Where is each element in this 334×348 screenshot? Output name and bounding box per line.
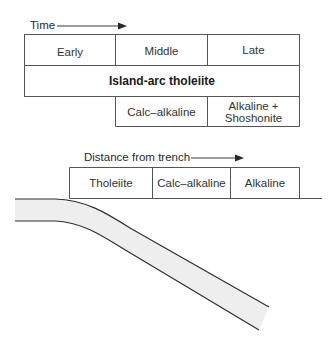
distance-arrow-icon bbox=[191, 155, 244, 162]
zone-calc-alkaline: Calc–alkaline bbox=[153, 168, 230, 198]
time-axis-label: Time bbox=[30, 19, 55, 31]
calc-alkaline-band: Calc–alkaline bbox=[116, 97, 207, 127]
stage-early: Early bbox=[25, 35, 115, 66]
stage-late: Late bbox=[208, 35, 299, 65]
alkaline-shoshonite-band: Alkaline + Shoshonite bbox=[208, 97, 299, 127]
zone-alkaline: Alkaline bbox=[231, 168, 299, 198]
stage-middle: Middle bbox=[116, 35, 207, 66]
time-arrow-icon bbox=[57, 23, 127, 30]
distance-axis-label: Distance from trench bbox=[84, 151, 190, 163]
subducting-slab bbox=[15, 199, 269, 330]
alkaline-label: Alkaline + bbox=[228, 100, 278, 112]
shoshonite-label: Shoshonite bbox=[225, 112, 283, 124]
island-arc-tholeiite-band: Island-arc tholeiite bbox=[25, 66, 299, 96]
zone-tholeiite: Tholeiite bbox=[70, 168, 152, 198]
